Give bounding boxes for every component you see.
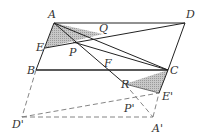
label-E: E	[35, 41, 44, 54]
label-B: B	[26, 64, 35, 77]
label-D-prime: D'	[11, 118, 24, 131]
segment-PC	[73, 42, 168, 70]
label-Q: Q	[99, 22, 108, 35]
label-F: F	[103, 57, 112, 70]
label-C: C	[170, 64, 179, 77]
dashed-D-prime-E-prime	[22, 93, 159, 117]
label-P-prime: P'	[123, 102, 134, 115]
dashed-A-prime-E-prime	[153, 93, 159, 117]
label-A: A	[47, 8, 56, 21]
label-A-prime: A'	[151, 122, 163, 135]
geometry-diagram: A D Q E P F B C R E' P' D' A'	[0, 0, 202, 139]
segment-DC	[168, 23, 185, 70]
label-P: P	[68, 46, 77, 59]
label-R: R	[120, 78, 129, 91]
shaded-triangle-AEQ	[45, 23, 103, 48]
dashed-BD-prime	[22, 70, 36, 117]
label-D: D	[185, 8, 195, 21]
label-E-prime: E'	[161, 90, 173, 103]
